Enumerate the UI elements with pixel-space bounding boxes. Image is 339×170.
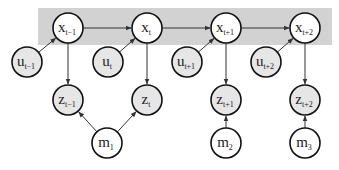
- graphical-model-diagram: xt−1xtxt+1xt+2ut−1utut+1ut+2zt−1ztzt+1zt…: [0, 0, 339, 170]
- node-m_1: m1: [92, 128, 122, 158]
- node-x_t+2: xt+2: [290, 13, 320, 43]
- node-z_t: zt: [132, 85, 162, 115]
- node-u_t-1: ut−1: [12, 47, 42, 77]
- node-x_t-1: xt−1: [53, 13, 83, 43]
- node-z_t-1: zt−1: [53, 85, 83, 115]
- node-x_t+1: xt+1: [211, 13, 241, 43]
- node-u_t: ut: [93, 47, 123, 77]
- node-z_t+2: zt+2: [290, 85, 320, 115]
- node-m_2: m2: [211, 128, 241, 158]
- node-x_t: xt: [132, 13, 162, 43]
- node-u_t+1: ut+1: [172, 47, 202, 77]
- edge-m_1-to-z_t-1: [79, 112, 97, 132]
- node-u_t+2: ut+2: [251, 47, 281, 77]
- node-z_t+1: zt+1: [211, 85, 241, 115]
- node-m_3: m3: [290, 128, 320, 158]
- edge-m_1-to-z_t: [117, 112, 136, 132]
